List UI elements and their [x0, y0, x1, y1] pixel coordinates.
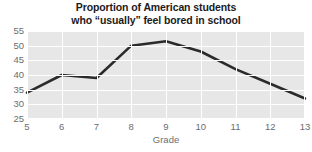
- x-tick-label: 5: [17, 121, 37, 132]
- gridline-vertical: [304, 31, 305, 119]
- y-axis: 25303540455055: [0, 31, 24, 119]
- y-tick-label: 55: [0, 26, 24, 36]
- gridline-vertical: [166, 31, 167, 119]
- y-tick-label: 35: [0, 85, 24, 95]
- chart-title: Proportion of American students who “usu…: [0, 1, 312, 26]
- y-tick-label: 50: [0, 41, 24, 51]
- x-tick-label: 11: [226, 121, 246, 132]
- x-tick-label: 13: [295, 121, 312, 132]
- x-tick-label: 6: [52, 121, 72, 132]
- x-axis-title: Grade: [27, 134, 305, 145]
- gridline-vertical: [131, 31, 132, 119]
- y-tick-label: 30: [0, 99, 24, 109]
- chart-title-line-1: Proportion of American students: [0, 1, 312, 14]
- plot-area: [27, 31, 305, 119]
- chart-figure: Proportion of American students who “usu…: [0, 0, 312, 152]
- gridline-vertical: [201, 31, 202, 119]
- y-tick-label: 40: [0, 70, 24, 80]
- gridline-vertical: [270, 31, 271, 119]
- x-tick-label: 7: [87, 121, 107, 132]
- y-tick-label: 45: [0, 55, 24, 65]
- gridline-vertical: [97, 31, 98, 119]
- x-tick-label: 12: [260, 121, 280, 132]
- gridline-vertical: [62, 31, 63, 119]
- x-axis: 5678910111213: [27, 121, 305, 135]
- gridline-vertical: [27, 31, 28, 119]
- x-tick-label: 8: [121, 121, 141, 132]
- gridline-vertical: [236, 31, 237, 119]
- x-tick-label: 9: [156, 121, 176, 132]
- x-tick-label: 10: [191, 121, 211, 132]
- chart-title-line-2: who “usually” feel bored in school: [0, 14, 312, 27]
